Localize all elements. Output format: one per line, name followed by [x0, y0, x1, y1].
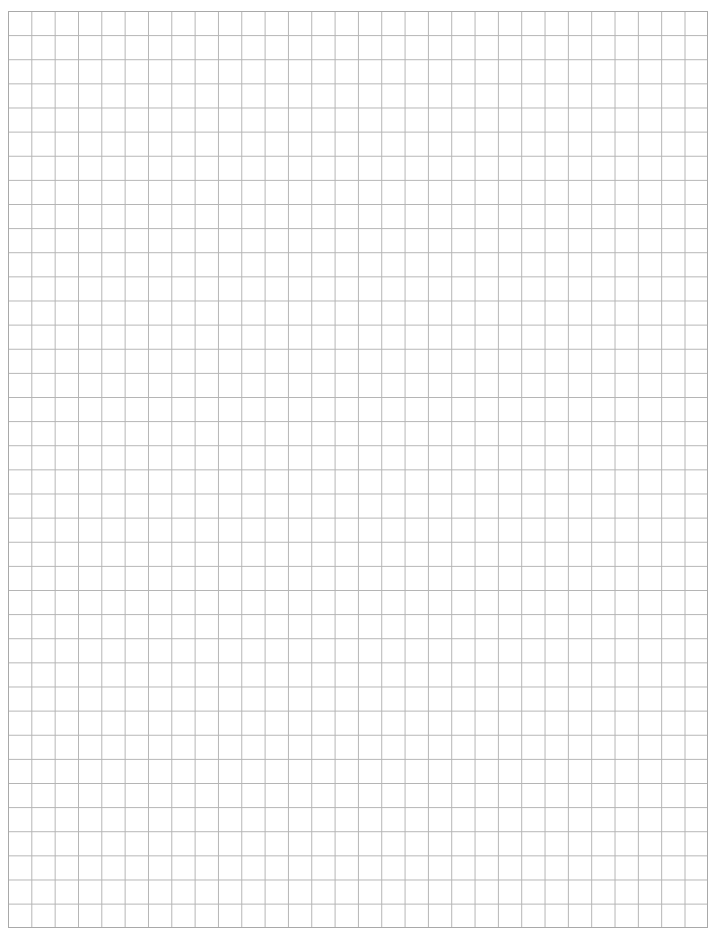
graph-paper-page [0, 0, 711, 934]
graph-grid [8, 11, 708, 928]
